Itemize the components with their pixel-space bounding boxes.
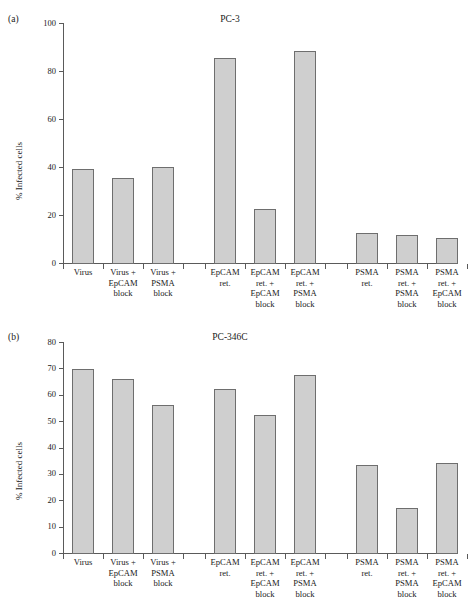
y-tick-mark [59, 474, 63, 475]
bar [436, 463, 458, 554]
bar [294, 51, 316, 264]
x-tick-label: Virus + PSMA block [143, 267, 183, 299]
x-tick-label: PSMA ret. + EpCAM block [427, 267, 467, 309]
x-tick-label: PSMA ret. [347, 557, 387, 578]
plot-area-pc3: 020406080100VirusVirus + EpCAM blockViru… [0, 0, 460, 310]
x-tick-label: Virus + EpCAM block [103, 557, 143, 589]
chart-panel-a: (a) PC-3 % Infected cells 020406080100Vi… [0, 0, 460, 310]
y-tick-label: 80 [29, 67, 56, 76]
bar [356, 465, 378, 554]
bar [152, 405, 174, 554]
y-tick-label: 10 [29, 522, 56, 531]
bar [436, 238, 458, 264]
x-tick-mark [325, 264, 326, 269]
y-tick-mark [59, 71, 63, 72]
y-tick-label: 30 [29, 469, 56, 478]
y-tick-mark [59, 500, 63, 501]
bar [254, 415, 276, 554]
y-tick-mark [59, 119, 63, 120]
bar [396, 508, 418, 554]
x-tick-label: PSMA ret. + PSMA block [387, 267, 427, 309]
x-tick-label: Virus [63, 557, 103, 568]
x-tick-label: EpCAM ret. [205, 267, 245, 288]
y-tick-label: 0 [29, 259, 56, 268]
x-tick-label: PSMA ret. + PSMA block [387, 557, 427, 599]
x-tick-mark [183, 554, 184, 559]
bar [72, 169, 94, 264]
bar [112, 178, 134, 264]
y-tick-label: 50 [29, 417, 56, 426]
y-tick-mark [59, 448, 63, 449]
x-tick-label: Virus + PSMA block [143, 557, 183, 589]
y-axis-line [63, 23, 64, 264]
x-tick-label: EpCAM ret. + EpCAM block [245, 267, 285, 309]
y-axis-line [63, 342, 64, 554]
y-tick-label: 100 [29, 19, 56, 28]
y-tick-mark [59, 527, 63, 528]
bar [214, 58, 236, 264]
y-tick-label: 0 [29, 549, 56, 558]
y-tick-mark [59, 23, 63, 24]
bar [72, 369, 94, 554]
y-tick-label: 60 [29, 390, 56, 399]
bar [112, 379, 134, 554]
bar [254, 209, 276, 264]
y-tick-label: 70 [29, 364, 56, 373]
x-tick-label: EpCAM ret. + EpCAM block [245, 557, 285, 599]
y-tick-label: 80 [29, 338, 56, 347]
chart-panel-b: (b) PC-346C % Infected cells 01020304050… [0, 310, 460, 613]
x-tick-label: Virus + EpCAM block [103, 267, 143, 299]
x-tick-label: PSMA ret. [347, 267, 387, 288]
x-tick-label: Virus [63, 267, 103, 278]
x-tick-label: EpCAM ret. + PSMA block [285, 557, 325, 599]
x-tick-label: EpCAM ret. [205, 557, 245, 578]
y-tick-mark [59, 215, 63, 216]
bar [214, 389, 236, 554]
y-tick-label: 20 [29, 211, 56, 220]
y-tick-mark [59, 342, 63, 343]
y-tick-mark [59, 395, 63, 396]
x-tick-label: EpCAM ret. + PSMA block [285, 267, 325, 309]
y-tick-mark [59, 421, 63, 422]
y-tick-label: 40 [29, 163, 56, 172]
bar [396, 235, 418, 264]
bar [356, 233, 378, 264]
x-tick-label: PSMA ret. + EpCAM block [427, 557, 467, 599]
y-tick-label: 20 [29, 496, 56, 505]
y-tick-mark [59, 167, 63, 168]
y-tick-label: 60 [29, 115, 56, 124]
bar [152, 167, 174, 264]
y-tick-label: 40 [29, 443, 56, 452]
plot-area-pc346c: 01020304050607080VirusVirus + EpCAM bloc… [0, 310, 460, 613]
y-tick-mark [59, 368, 63, 369]
bar [294, 375, 316, 554]
x-tick-mark [325, 554, 326, 559]
x-tick-mark [183, 264, 184, 269]
